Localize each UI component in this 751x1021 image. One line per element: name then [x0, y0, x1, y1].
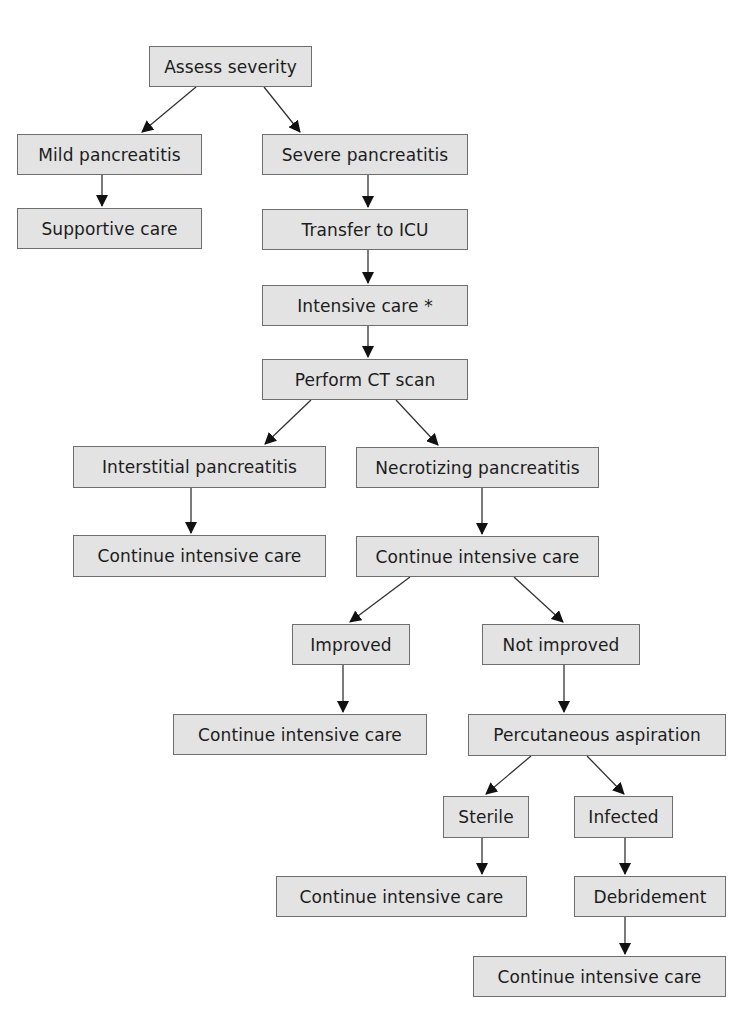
arrow-cont2-to-notimproved — [514, 577, 563, 622]
node-intensive-care: Intensive care * — [262, 285, 468, 326]
node-not-improved: Not improved — [482, 624, 640, 665]
node-infected: Infected — [574, 796, 673, 838]
node-necrotizing-pancreatitis: Necrotizing pancreatitis — [356, 447, 599, 488]
node-severe-pancreatitis: Severe pancreatitis — [262, 134, 468, 175]
node-percutaneous-aspiration: Percutaneous aspiration — [468, 714, 726, 756]
arrow-aspiration-to-sterile — [486, 756, 531, 794]
node-continue-intensive-care-sterile: Continue intensive care — [276, 876, 527, 917]
node-continue-intensive-care-interstitial: Continue intensive care — [73, 535, 326, 577]
arrow-cont2-to-improved — [350, 577, 410, 622]
arrow-ct-to-necrotizing — [396, 400, 438, 445]
node-continue-intensive-care-improved: Continue intensive care — [173, 714, 427, 755]
arrow-assess-to-severe — [264, 87, 300, 132]
node-interstitial-pancreatitis: Interstitial pancreatitis — [73, 446, 326, 488]
node-improved: Improved — [292, 624, 410, 665]
node-continue-intensive-care-final: Continue intensive care — [473, 956, 726, 997]
node-perform-ct-scan: Perform CT scan — [262, 359, 468, 400]
node-assess-severity: Assess severity — [149, 46, 312, 87]
node-supportive-care: Supportive care — [17, 208, 202, 249]
node-transfer-to-icu: Transfer to ICU — [262, 209, 468, 250]
node-mild-pancreatitis: Mild pancreatitis — [17, 134, 202, 175]
node-sterile: Sterile — [443, 796, 529, 838]
node-debridement: Debridement — [574, 876, 726, 917]
node-continue-intensive-care-necrotizing: Continue intensive care — [356, 536, 599, 577]
arrow-assess-to-mild — [142, 87, 196, 132]
flowchart-canvas: Assess severity Mild pancreatitis Severe… — [0, 0, 751, 1021]
arrow-aspiration-to-infected — [587, 756, 624, 794]
arrow-ct-to-interstitial — [265, 400, 311, 444]
